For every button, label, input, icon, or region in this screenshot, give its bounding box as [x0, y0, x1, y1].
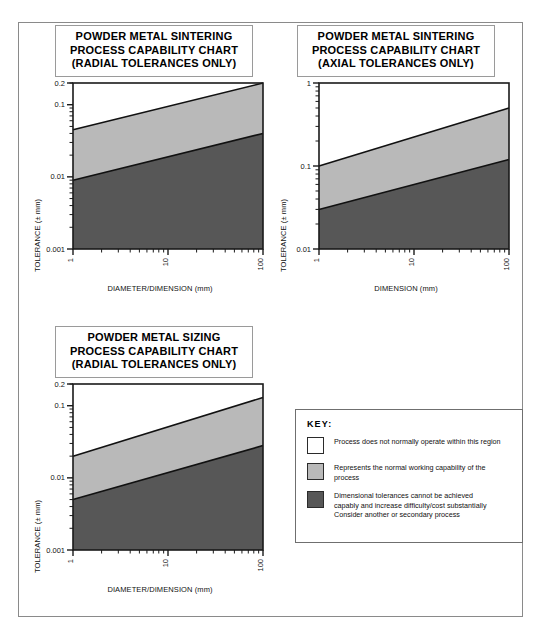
key-heading: KEY:	[307, 419, 512, 429]
chart-plot-sintering-axial: TOLERANCE (± mm) 0.010.11110100 DIMENSIO…	[277, 77, 517, 293]
title-line: PROCESS CAPABILITY CHART	[62, 345, 246, 359]
svg-text:0.1: 0.1	[301, 161, 311, 170]
svg-text:0.2: 0.2	[55, 78, 65, 87]
key-item-difficult: Dimensional tolerances cannot be achieve…	[307, 490, 512, 520]
svg-text:1: 1	[66, 559, 75, 563]
svg-text:0.01: 0.01	[50, 473, 65, 482]
key-text-line: Consider another or secondary process	[334, 510, 487, 520]
key-legend-box: KEY: Process does not normally operate w…	[295, 409, 523, 543]
title-line: (AXIAL TOLERANCES ONLY)	[304, 57, 488, 71]
svg-text:0.2: 0.2	[55, 379, 65, 388]
page-frame: POWDER METAL SINTERING PROCESS CAPABILIT…	[18, 22, 523, 617]
chart-plot-sintering-radial: TOLERANCE (± mm) 0.0010.010.10.2110100 D…	[31, 77, 271, 293]
svg-text:100: 100	[256, 559, 265, 572]
svg-text:0.001: 0.001	[46, 244, 65, 253]
chart-title-sintering-axial: POWDER METAL SINTERING PROCESS CAPABILIT…	[297, 25, 495, 77]
key-item-text: Dimensional tolerances cannot be achieve…	[334, 490, 487, 520]
chart-svg: 0.0010.010.10.2110100	[31, 378, 271, 583]
chart-panel-sintering-radial: POWDER METAL SINTERING PROCESS CAPABILIT…	[31, 25, 271, 325]
svg-text:0.01: 0.01	[296, 244, 311, 253]
svg-text:1: 1	[66, 258, 75, 262]
svg-text:100: 100	[256, 258, 265, 271]
x-axis-title: DIAMETER/DIMENSION (mm)	[61, 585, 259, 594]
title-line: (RADIAL TOLERANCES ONLY)	[62, 57, 246, 71]
y-axis-title: TOLERANCE (± mm)	[33, 198, 42, 271]
key-text-line: Dimensional tolerances cannot be achieve…	[334, 491, 487, 501]
title-line: POWDER METAL SIZING	[62, 331, 246, 345]
chart-panel-sizing-radial: POWDER METAL SIZING PROCESS CAPABILITY C…	[31, 326, 271, 626]
key-item-text: Process does not normally operate within…	[334, 436, 501, 447]
title-line: (RADIAL TOLERANCES ONLY)	[62, 358, 246, 372]
svg-text:10: 10	[407, 258, 416, 266]
x-axis-title: DIMENSION (mm)	[307, 284, 505, 293]
chart-svg: 0.0010.010.10.2110100	[31, 77, 271, 282]
title-line: POWDER METAL SINTERING	[304, 30, 488, 44]
key-swatch-light-gray	[307, 463, 324, 480]
svg-text:0.01: 0.01	[50, 172, 65, 181]
title-line: PROCESS CAPABILITY CHART	[304, 44, 488, 58]
chart-panel-sintering-axial: POWDER METAL SINTERING PROCESS CAPABILIT…	[277, 25, 517, 325]
chart-title-sizing-radial: POWDER METAL SIZING PROCESS CAPABILITY C…	[55, 326, 253, 378]
key-swatch-dark-gray	[307, 491, 324, 508]
chart-plot-sizing-radial: TOLERANCE (± mm) 0.0010.010.10.2110100 D…	[31, 378, 271, 594]
svg-text:0.1: 0.1	[55, 401, 65, 410]
key-item-text: Represents the normal working capability…	[334, 462, 485, 482]
title-line: PROCESS CAPABILITY CHART	[62, 44, 246, 58]
x-axis-title: DIAMETER/DIMENSION (mm)	[61, 284, 259, 293]
key-swatch-white	[307, 437, 324, 454]
svg-text:1: 1	[312, 258, 321, 262]
key-text-line: Process does not normally operate within…	[334, 437, 501, 447]
svg-text:1: 1	[307, 78, 311, 87]
svg-text:0.001: 0.001	[46, 545, 65, 554]
y-axis-title: TOLERANCE (± mm)	[33, 499, 42, 572]
chart-svg: 0.010.11110100	[277, 77, 517, 282]
key-text-line: process	[334, 473, 485, 483]
key-item-outside: Process does not normally operate within…	[307, 436, 512, 454]
key-item-normal: Represents the normal working capability…	[307, 462, 512, 482]
svg-text:10: 10	[161, 258, 170, 266]
svg-text:100: 100	[502, 258, 511, 271]
title-line: POWDER METAL SINTERING	[62, 30, 246, 44]
svg-text:0.1: 0.1	[55, 100, 65, 109]
key-text-line: Represents the normal working capability…	[334, 463, 485, 473]
svg-text:10: 10	[161, 559, 170, 567]
key-text-line: capably and increase difficulty/cost sub…	[334, 501, 487, 511]
chart-title-sintering-radial: POWDER METAL SINTERING PROCESS CAPABILIT…	[55, 25, 253, 77]
y-axis-title: TOLERANCE (± mm)	[279, 198, 288, 271]
